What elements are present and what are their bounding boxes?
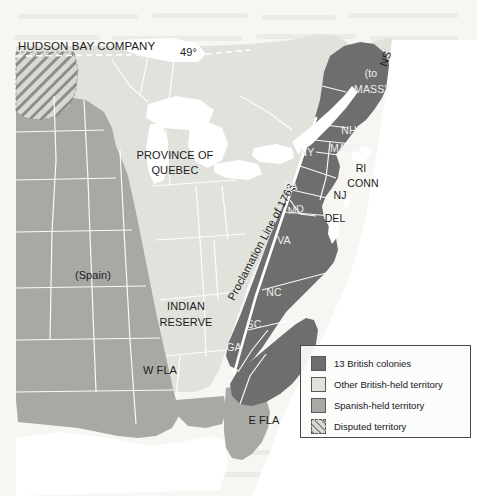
legend-label-other-british: Other British-held territory — [334, 379, 443, 390]
legend-label-thirteen-colonies: 13 British colonies — [334, 358, 411, 369]
map-legend: 13 British colonies Other British-held t… — [300, 345, 471, 438]
legend-swatch-thirteen-colonies — [311, 356, 326, 371]
scanned-map-page: HUDSON BAY COMPANY 49° PROVINCE OF QUEBE… — [0, 0, 477, 496]
legend-row-other-british: Other British-held territory — [311, 374, 462, 395]
legend-swatch-other-british — [311, 377, 326, 392]
legend-label-spanish: Spanish-held territory — [334, 400, 424, 411]
legend-row-thirteen-colonies: 13 British colonies — [311, 353, 462, 374]
legend-label-disputed: Disputed territory — [334, 421, 406, 432]
legend-row-disputed: Disputed territory — [311, 416, 462, 437]
legend-swatch-spanish — [311, 398, 326, 413]
legend-swatch-disputed — [311, 419, 326, 434]
legend-row-spanish: Spanish-held territory — [311, 395, 462, 416]
